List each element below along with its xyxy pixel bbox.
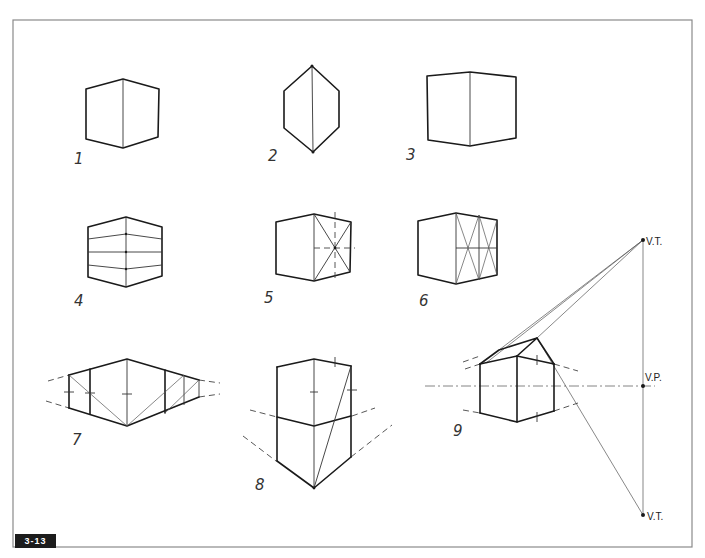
step-5-label: 5 bbox=[264, 289, 274, 307]
step-1-cube: 1 bbox=[74, 79, 159, 168]
step-7-extended-face: 7 bbox=[46, 359, 220, 449]
perspective-drawing-figure: 1 2 3 4 5 bbox=[0, 0, 705, 558]
vt-top-label: V.T. bbox=[646, 236, 662, 247]
step-5-center-cube: 5 bbox=[264, 212, 355, 307]
step-9-house-perspective: V.T. V.P. V.T. 9 bbox=[425, 236, 663, 522]
step-8-stacked-cube: 8 bbox=[243, 357, 392, 494]
step-9-label: 9 bbox=[453, 422, 463, 440]
step-3-cube: 3 bbox=[406, 72, 516, 164]
step-6-label: 6 bbox=[419, 292, 429, 310]
step-3-label: 3 bbox=[406, 146, 416, 164]
step-7-label: 7 bbox=[72, 431, 82, 449]
vt-bottom-label: V.T. bbox=[647, 511, 663, 522]
vp-label: V.P. bbox=[645, 372, 662, 383]
step-4-label: 4 bbox=[74, 292, 84, 310]
step-2-cube: 2 bbox=[268, 65, 339, 166]
step-1-label: 1 bbox=[74, 150, 84, 168]
step-8-label: 8 bbox=[255, 476, 265, 494]
step-6-divided-cube: 6 bbox=[418, 213, 497, 310]
figure-number-badge: 3-13 bbox=[15, 534, 56, 548]
step-4-banded-cube: 4 bbox=[74, 217, 162, 310]
step-2-label: 2 bbox=[268, 147, 278, 165]
